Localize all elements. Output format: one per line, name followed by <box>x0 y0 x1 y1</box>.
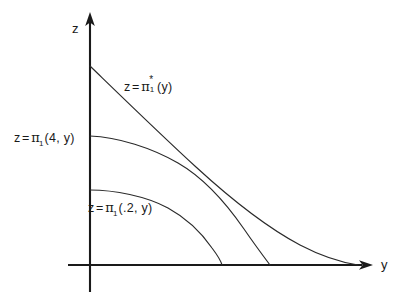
label-curve-high-lhs: z <box>14 132 21 145</box>
label-curve-low-argument: (.2, y) <box>118 201 152 215</box>
label-envelope-superscript: * <box>149 75 153 85</box>
envelope-figure: z y z=π*1(y) z=π1(4, y) z=π1(.2, y) <box>0 0 419 301</box>
label-envelope-pi-group: π*1 <box>141 80 157 94</box>
z-axis-label: z <box>72 22 79 35</box>
plot-canvas <box>0 0 419 301</box>
label-curve-low-lhs: z <box>88 202 95 215</box>
label-envelope-lhs: z <box>124 81 131 94</box>
label-curve-high-argument: (4, y) <box>44 131 74 145</box>
label-envelope-subscript: 1 <box>150 86 154 94</box>
label-curve-low-subscript: 1 <box>113 209 117 218</box>
y-axis-label-text: y <box>381 257 388 272</box>
z-axis-label-text: z <box>72 21 79 36</box>
label-curve-high: z=π1(4, y) <box>14 131 75 145</box>
label-curve-high-subscript: 1 <box>39 139 43 148</box>
label-envelope-equals: = <box>131 80 142 94</box>
label-curve-high-equals: = <box>21 131 32 145</box>
label-curve-low: z=π1(.2, y) <box>88 201 153 215</box>
y-axis-label: y <box>381 258 388 271</box>
curve-envelope <box>90 66 358 265</box>
label-envelope-argument: (y) <box>157 80 172 94</box>
label-curve-low-equals: = <box>95 201 106 215</box>
label-envelope: z=π*1(y) <box>124 80 173 94</box>
